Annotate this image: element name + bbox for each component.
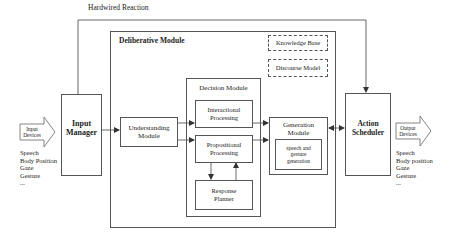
propositional-label-2: Processing (210, 149, 238, 157)
action-scheduler-label-1: Action (357, 119, 378, 128)
discourse-model-box: Discourse Model (268, 59, 328, 77)
deliberative-module-title: Deliberative Module (119, 37, 219, 45)
understanding-module-label-1: Understanding (128, 124, 169, 132)
hardwired-reaction-label: Hardwired Reaction (88, 4, 168, 12)
action-scheduler-box: Action Scheduler (345, 93, 391, 176)
response-planner-box: Response Planner (195, 180, 253, 210)
decision-module-title: Decision Module (186, 84, 261, 92)
knowledge-base-label: Knowledge Base (276, 39, 320, 47)
interactional-label-2: Processing (210, 114, 238, 122)
output-modality: Body position (396, 157, 433, 165)
interactional-label-1: Interactional (208, 106, 241, 114)
output-modality: Speech (396, 149, 433, 157)
action-scheduler-label-2: Scheduler (352, 128, 384, 137)
input-modality: Gaze (20, 164, 57, 172)
understanding-module-box: Understanding Module (120, 117, 178, 147)
input-modality: ... (20, 179, 57, 187)
output-modality: ... (396, 179, 433, 187)
input-modality: Body Position (20, 157, 57, 165)
input-modality: Speech (20, 149, 57, 157)
output-modalities-list: Speech Body position Gaze Gesture ... (396, 149, 433, 187)
input-modality: Gesture (20, 172, 57, 180)
discourse-model-label: Discourse Model (276, 64, 321, 72)
propositional-processing-box: Propositional Processing (195, 135, 253, 163)
output-modality: Gesture (396, 172, 433, 180)
input-devices-arrow: Input Devices (20, 124, 44, 140)
interactional-processing-box: Interactional Processing (195, 100, 253, 128)
input-modalities-list: Speech Body Position Gaze Gesture ... (20, 149, 57, 187)
understanding-module-label-2: Module (138, 132, 160, 140)
generation-module-box: Generation Module speech and gesture gen… (269, 117, 328, 175)
speech-gesture-label-3: generation (287, 158, 310, 165)
knowledge-base-box: Knowledge Base (268, 35, 328, 51)
response-planner-label-2: Planner (214, 195, 234, 203)
output-devices-label-2: Devices (399, 131, 417, 138)
input-devices-label-2: Devices (23, 132, 41, 139)
input-manager-box: Input Manager (61, 94, 102, 176)
generation-module-label-2: Module (270, 129, 327, 137)
input-manager-label-1: Input (72, 119, 91, 128)
speech-gesture-generation-box: speech and gesture generation (275, 139, 322, 170)
input-manager-label-2: Manager (66, 128, 97, 137)
architecture-diagram: Hardwired Reaction Deliberative Module K… (0, 0, 452, 236)
output-devices-arrow: Output Devices (396, 123, 420, 139)
propositional-label-1: Propositional (207, 141, 242, 149)
response-planner-label-1: Response (212, 187, 237, 195)
output-modality: Gaze (396, 164, 433, 172)
generation-module-label-1: Generation (270, 121, 327, 129)
